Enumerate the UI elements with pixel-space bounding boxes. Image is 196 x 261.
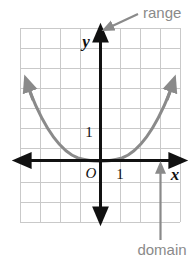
origin-label: O	[86, 165, 97, 181]
y-tick-label-1: 1	[85, 124, 93, 140]
domain-label: domain	[137, 241, 186, 258]
range-arrow	[108, 14, 138, 28]
range-label: range	[143, 4, 181, 21]
x-tick-label-1: 1	[116, 166, 124, 182]
range-annotation	[108, 14, 138, 28]
y-axis-label: y	[80, 32, 90, 51]
figure-canvas: y x O 1 1 range domain	[0, 0, 196, 261]
parabola-domain-range-figure: y x O 1 1 range domain	[0, 0, 196, 261]
x-axis-label: x	[170, 165, 180, 184]
